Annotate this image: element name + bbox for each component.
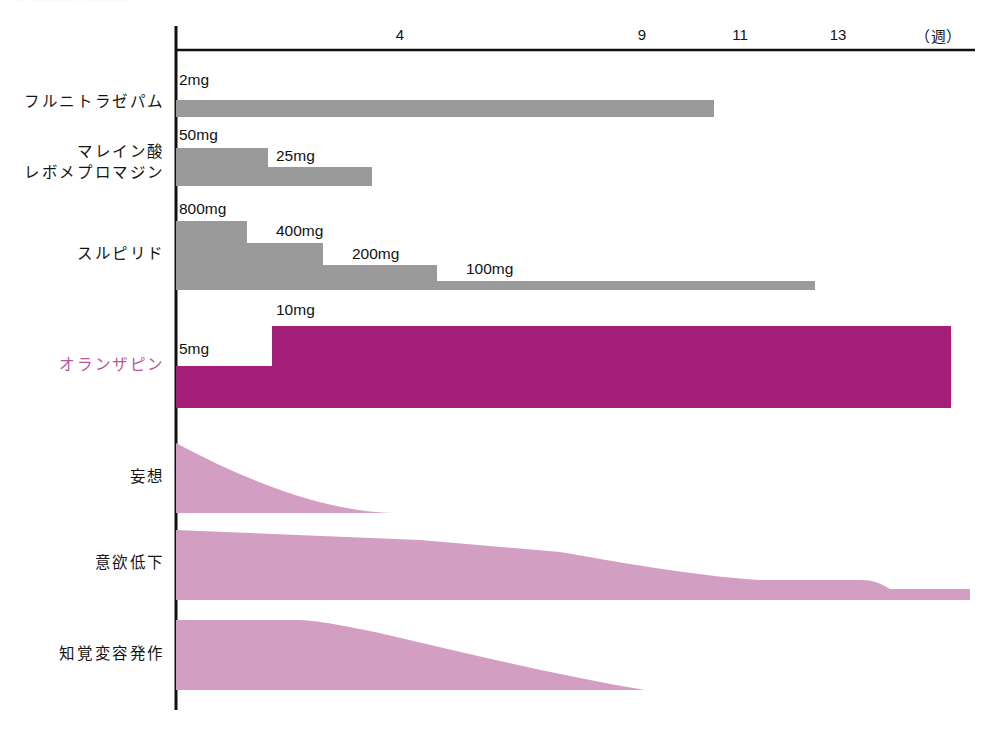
x-tick-4: 4 xyxy=(386,26,414,43)
wedge-reduced-motivation xyxy=(176,530,970,600)
bar-flunitrazepam-2mg xyxy=(176,100,714,117)
x-tick-11: 11 xyxy=(726,26,754,43)
dose-label-sulpiride-800mg: 800mg xyxy=(179,200,226,218)
dose-label-sulpiride-100mg: 100mg xyxy=(466,260,513,278)
dose-label-levomepromazine-25mg: 25mg xyxy=(276,147,315,165)
row-label-flunitrazepam: フルニトラゼパム xyxy=(0,92,165,112)
dose-label-sulpiride-200mg: 200mg xyxy=(352,245,399,263)
wedge-perceptual-alteration xyxy=(176,620,645,690)
row-label-sulpiride: スルピリド xyxy=(0,244,165,264)
x-tick-9: 9 xyxy=(628,26,656,43)
dose-label-sulpiride-400mg: 400mg xyxy=(276,222,323,240)
row-label-delusion: 妄想 xyxy=(0,467,165,487)
bar-sulpiride-steps xyxy=(176,221,815,290)
bar-levomepromazine-steps xyxy=(176,148,372,186)
bar-olanzapine-steps xyxy=(176,326,951,408)
dose-label-olanzapine-10mg: 10mg xyxy=(276,301,315,319)
row-label-perceptual-alteration: 知覚変容発作 xyxy=(0,644,165,664)
wedge-delusion xyxy=(176,443,392,513)
row-label-olanzapine: オランザピン xyxy=(0,355,165,375)
row-label-levomepromazine-line2: レボメプロマジン xyxy=(0,163,165,183)
row-label-levomepromazine-line1: マレイン酸 xyxy=(0,142,165,162)
dose-label-olanzapine-5mg: 5mg xyxy=(179,340,209,358)
x-tick-13: 13 xyxy=(824,26,852,43)
dose-label-levomepromazine-50mg: 50mg xyxy=(179,126,218,144)
chart-root: ··························· 4 9 11 13 （週… xyxy=(0,0,988,731)
dose-label-flunitrazepam-2mg: 2mg xyxy=(179,71,209,89)
x-axis-unit-label: （週） xyxy=(915,25,962,46)
row-label-reduced-motivation: 意欲低下 xyxy=(0,553,165,573)
